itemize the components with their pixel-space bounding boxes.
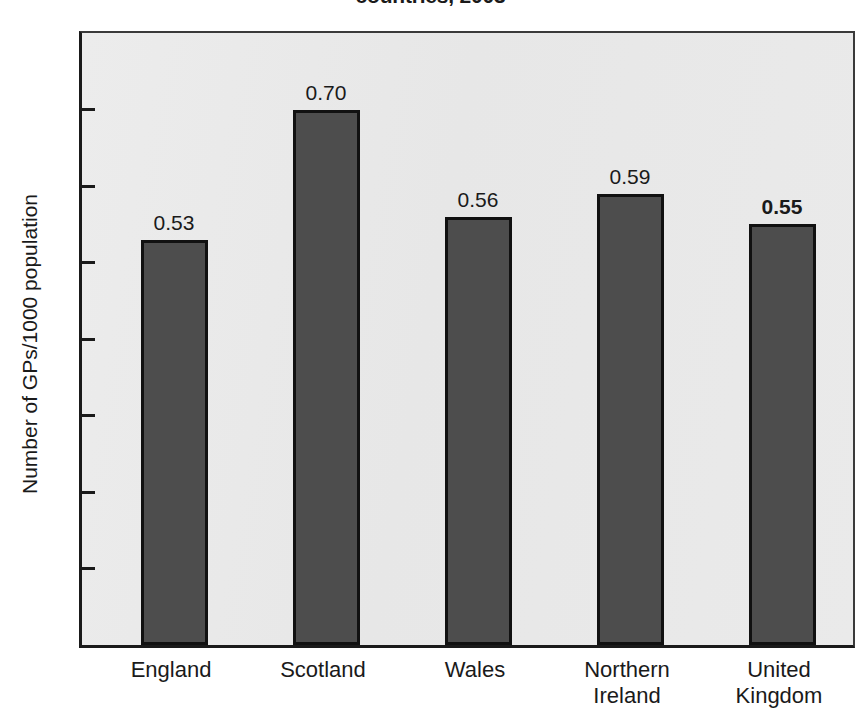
x-tick-label: England [96,657,246,683]
x-tick-label: Scotland [248,657,398,683]
y-tick-mark [82,414,95,417]
bar [293,110,360,646]
bar [749,224,816,645]
bar [597,194,664,645]
bar [141,240,208,645]
y-tick-mark [82,491,95,494]
y-tick-mark [82,261,95,264]
x-tick-label: Wales [400,657,550,683]
x-tick-label: Northern Ireland [552,657,702,709]
bar-value-label: 0.70 [266,82,386,103]
y-tick-mark [82,338,95,341]
bar-value-label: 0.59 [570,166,690,187]
x-tick-label: United Kingdom [704,657,854,709]
bar [445,217,512,645]
bar-value-label: 0.55 [722,196,842,217]
y-tick-mark [82,108,95,111]
chart-title: countries, 2003 [0,0,861,8]
bar-value-label: 0.53 [114,212,234,233]
y-tick-mark [82,185,95,188]
y-tick-mark [82,567,95,570]
bar-value-label: 0.56 [418,189,538,210]
y-axis-title: Number of GPs/1000 population [18,144,42,544]
plot-area: 0.530.700.560.590.55 [79,31,855,648]
